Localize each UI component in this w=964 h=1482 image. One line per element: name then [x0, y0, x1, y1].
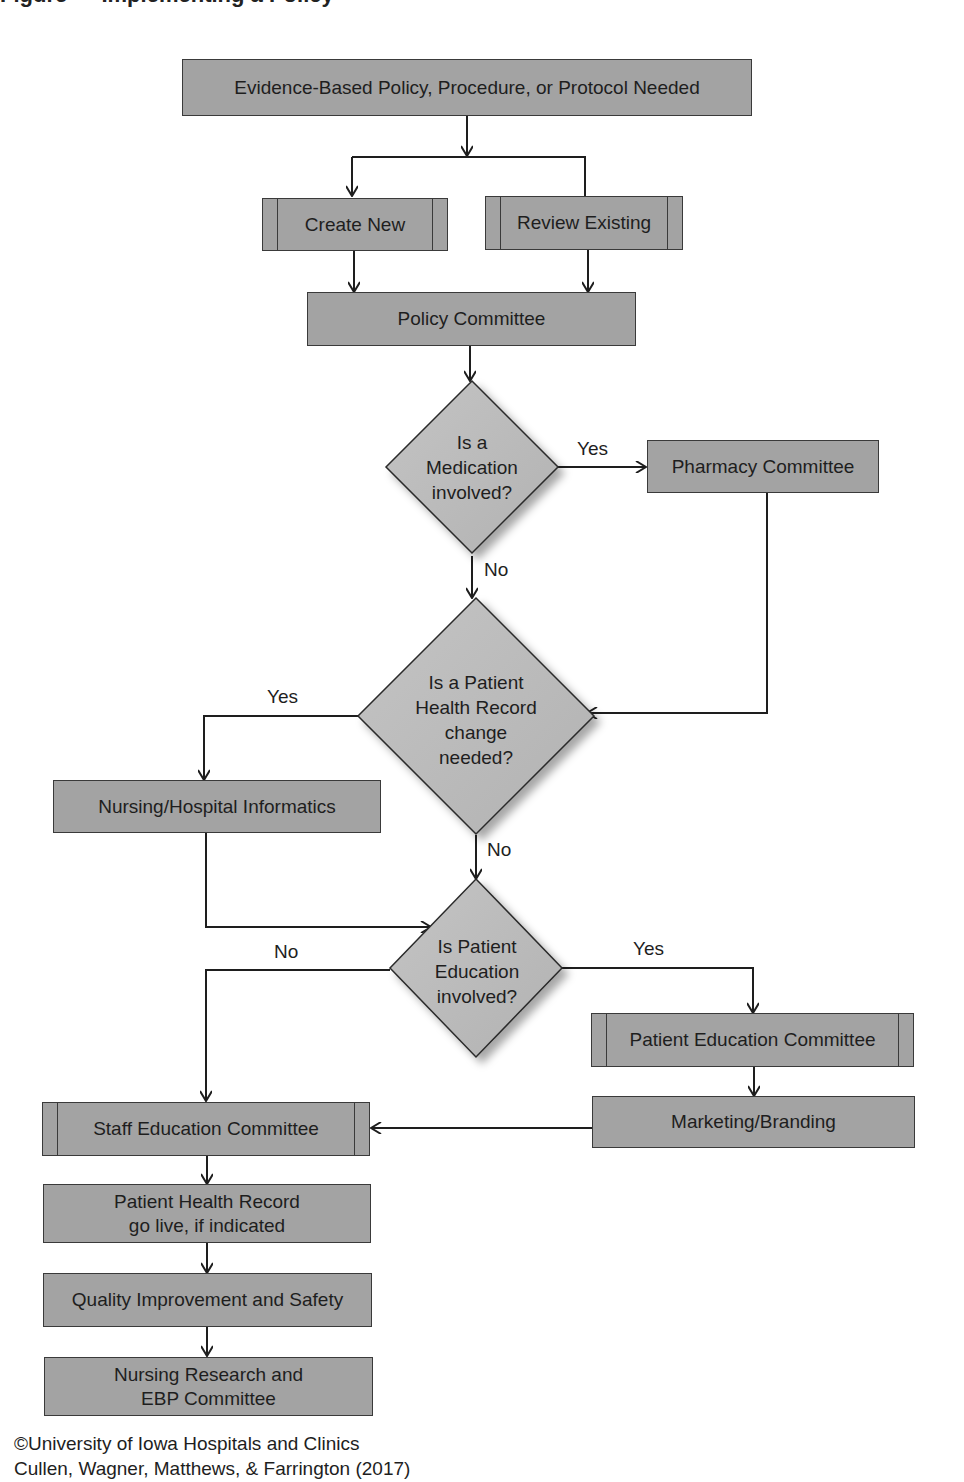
copyright-line: ©University of Iowa Hospitals and Clinic… [14, 1431, 410, 1456]
review-existing-label: Review Existing [517, 211, 651, 235]
nursing-research-box: Nursing Research and EBP Committee [44, 1357, 373, 1416]
nursing-research-line-1: Nursing Research and [114, 1363, 303, 1387]
start-box: Evidence-Based Policy, Procedure, or Pro… [182, 59, 752, 116]
create-new-box: Create New [262, 198, 448, 251]
citation-line: Cullen, Wagner, Matthews, & Farrington (… [14, 1456, 410, 1481]
health-record-no-label: No [487, 839, 511, 861]
decision-patient-education: Is Patient Education involved? [418, 932, 536, 1010]
health-record-go-live-line-1: Patient Health Record [114, 1190, 300, 1214]
decision-health-record: Is a Patient Health Record change needed… [396, 668, 556, 772]
staff-education-committee-label: Staff Education Committee [93, 1117, 319, 1141]
decision-health-record-line-4: needed? [439, 745, 513, 770]
medication-no-label: No [484, 559, 508, 581]
start-label: Evidence-Based Policy, Procedure, or Pro… [234, 76, 699, 100]
informatics-label: Nursing/Hospital Informatics [98, 795, 336, 819]
decision-health-record-line-3: change [445, 720, 507, 745]
pharmacy-committee-label: Pharmacy Committee [672, 455, 855, 479]
health-record-yes-label: Yes [267, 686, 298, 708]
policy-committee-label: Policy Committee [398, 307, 546, 331]
nursing-research-line-2: EBP Committee [141, 1387, 276, 1411]
copyright-footer: ©University of Iowa Hospitals and Clinic… [14, 1431, 410, 1481]
quality-improvement-box: Quality Improvement and Safety [43, 1273, 372, 1327]
create-new-label: Create New [305, 213, 405, 237]
patient-education-committee-label: Patient Education Committee [629, 1028, 875, 1052]
pharmacy-committee-box: Pharmacy Committee [647, 440, 879, 493]
decision-patient-education-line-2: Education [435, 959, 520, 984]
health-record-go-live-box: Patient Health Record go live, if indica… [43, 1184, 371, 1243]
education-yes-label: Yes [633, 938, 664, 960]
decision-medication-line-3: involved? [432, 480, 512, 505]
decision-medication: Is a Medication involved? [406, 420, 538, 514]
review-existing-box: Review Existing [485, 196, 683, 250]
decision-medication-line-2: Medication [426, 455, 518, 480]
decision-health-record-line-1: Is a Patient [428, 670, 523, 695]
decision-medication-line-1: Is a [457, 430, 488, 455]
policy-committee-box: Policy Committee [307, 292, 636, 346]
patient-education-committee-box: Patient Education Committee [591, 1013, 914, 1067]
staff-education-committee-box: Staff Education Committee [42, 1102, 370, 1156]
medication-yes-label: Yes [577, 438, 608, 460]
marketing-branding-label: Marketing/Branding [671, 1110, 836, 1134]
decision-patient-education-line-3: involved? [437, 984, 517, 1009]
decision-health-record-line-2: Health Record [415, 695, 536, 720]
health-record-go-live-line-2: go live, if indicated [129, 1214, 285, 1238]
marketing-branding-box: Marketing/Branding [592, 1096, 915, 1148]
education-no-label: No [274, 941, 298, 963]
informatics-box: Nursing/Hospital Informatics [53, 780, 381, 833]
quality-improvement-label: Quality Improvement and Safety [72, 1288, 343, 1312]
decision-patient-education-line-1: Is Patient [437, 934, 516, 959]
